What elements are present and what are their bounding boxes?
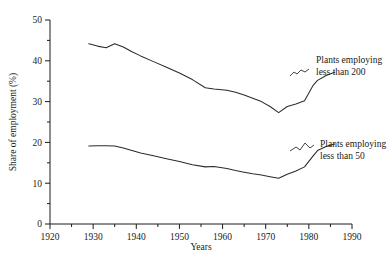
x-axis-ticks xyxy=(50,224,352,229)
x-tick-label: 1960 xyxy=(213,232,232,242)
y-axis-title: Share of employment (%) xyxy=(8,73,19,171)
y-tick-label: 10 xyxy=(33,179,43,189)
annotation-upper-line2: less than 200 xyxy=(316,67,366,77)
annotation-upper-line1: Plants employing xyxy=(316,55,382,65)
chart-container: 01020304050 1920193019401950196019701980… xyxy=(0,0,392,261)
x-tick-label: 1980 xyxy=(299,232,318,242)
x-tick-label: 1970 xyxy=(256,232,275,242)
x-axis-title: Years xyxy=(190,242,212,252)
y-tick-label: 20 xyxy=(33,138,43,148)
annotation-lower-line1: Plants employing xyxy=(320,139,386,149)
y-axis-tick-labels: 01020304050 xyxy=(33,15,43,229)
x-tick-label: 1990 xyxy=(343,232,362,242)
employment-share-line-chart: 01020304050 1920193019401950196019701980… xyxy=(0,0,392,261)
annotation-lower-line2: less than 50 xyxy=(320,151,365,161)
x-axis-tick-labels: 19201930194019501960197019801990 xyxy=(41,232,362,242)
annotation-leader-upper xyxy=(290,69,309,76)
y-tick-label: 50 xyxy=(33,15,43,25)
annotation-leader-lower xyxy=(290,143,314,151)
series-line-plants-under-200 xyxy=(89,44,335,113)
x-tick-label: 1950 xyxy=(170,232,189,242)
y-axis-ticks xyxy=(45,20,50,224)
x-tick-label: 1920 xyxy=(41,232,60,242)
y-tick-label: 30 xyxy=(33,97,43,107)
series-line-plants-under-50 xyxy=(89,144,335,178)
y-tick-label: 40 xyxy=(33,56,43,66)
y-tick-label: 0 xyxy=(37,219,42,229)
x-tick-label: 1930 xyxy=(84,232,103,242)
x-tick-label: 1940 xyxy=(127,232,146,242)
